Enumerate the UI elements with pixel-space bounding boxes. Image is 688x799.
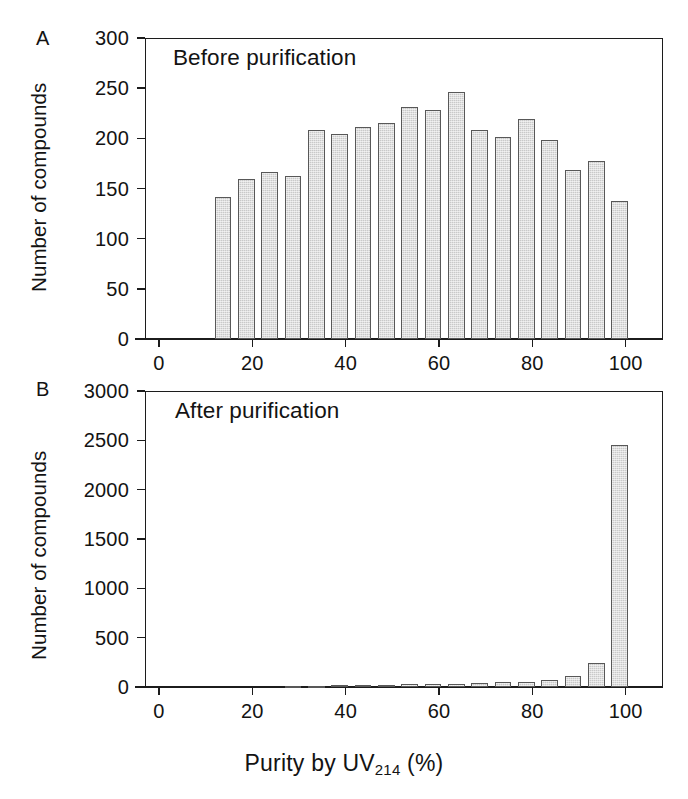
bar: [495, 682, 512, 687]
y-tick-mark: [137, 288, 145, 290]
y-tick-label: 0: [39, 676, 129, 699]
panel-a-title: Before purification: [173, 45, 356, 71]
x-tick-mark: [252, 687, 254, 695]
x-tick-label: 0: [153, 700, 164, 723]
x-tick-mark: [345, 687, 347, 695]
bar: [611, 201, 628, 339]
bar: [378, 685, 395, 687]
bar: [215, 197, 232, 339]
bar: [471, 683, 488, 687]
y-tick-mark: [137, 637, 145, 639]
x-tick-label: 100: [609, 700, 643, 723]
y-tick-label: 3000: [39, 380, 129, 403]
panel-b-title: After purification: [175, 398, 339, 424]
y-tick-label: 0: [39, 328, 129, 351]
x-tick-mark: [252, 339, 254, 347]
x-axis-caption: Purity by UV214 (%): [0, 750, 688, 777]
y-tick-mark: [137, 37, 145, 39]
bar: [285, 176, 302, 339]
y-tick-label: 1000: [39, 577, 129, 600]
bar: [331, 134, 348, 339]
x-tick-mark: [532, 687, 534, 695]
bar: [588, 663, 605, 687]
bar: [565, 170, 582, 339]
x-tick-mark: [625, 687, 627, 695]
panel-a: A Number of compounds 050100150200250300…: [0, 0, 688, 370]
x-tick-label: 80: [521, 700, 544, 723]
panel-b: B Number of compounds 050010001500200025…: [0, 370, 688, 799]
bar: [518, 119, 535, 339]
x-tick-mark: [532, 339, 534, 347]
y-tick-label: 150: [39, 177, 129, 200]
y-tick-mark: [137, 238, 145, 240]
x-tick-mark: [625, 339, 627, 347]
panel-b-plot-area: [145, 391, 663, 687]
y-tick-mark: [137, 390, 145, 392]
bar: [285, 686, 302, 688]
x-tick-mark: [345, 339, 347, 347]
x-axis-caption-suffix: (%): [400, 750, 443, 776]
bar: [518, 682, 535, 687]
bar: [378, 123, 395, 339]
bar: [355, 127, 372, 339]
x-tick-label: 20: [241, 700, 264, 723]
bar: [308, 130, 325, 339]
x-tick-mark: [158, 687, 160, 695]
bar: [448, 92, 465, 339]
y-tick-mark: [137, 588, 145, 590]
y-tick-label: 300: [39, 27, 129, 50]
bar: [588, 161, 605, 339]
bar: [261, 172, 278, 339]
x-tick-mark: [438, 687, 440, 695]
y-tick-mark: [137, 538, 145, 540]
figure-root: A Number of compounds 050100150200250300…: [0, 0, 688, 799]
y-tick-mark: [137, 87, 145, 89]
bar: [565, 676, 582, 687]
x-tick-mark: [158, 339, 160, 347]
y-tick-mark: [137, 188, 145, 190]
bar: [611, 445, 628, 687]
x-tick-label: 40: [334, 700, 357, 723]
y-tick-label: 50: [39, 277, 129, 300]
bar: [401, 107, 418, 339]
y-tick-label: 200: [39, 127, 129, 150]
x-axis-caption-prefix: Purity by UV: [245, 750, 375, 776]
bar: [541, 680, 558, 687]
y-tick-mark: [137, 138, 145, 140]
x-axis-caption-subscript: 214: [375, 761, 401, 778]
bar: [425, 110, 442, 339]
bar: [401, 684, 418, 687]
bar: [541, 140, 558, 339]
bar: [331, 685, 348, 687]
x-tick-mark: [438, 339, 440, 347]
y-tick-label: 250: [39, 77, 129, 100]
bar: [308, 686, 325, 688]
x-axis-line: [135, 686, 663, 688]
bar: [448, 684, 465, 687]
bar: [238, 179, 255, 339]
bar: [471, 130, 488, 339]
bar: [495, 137, 512, 339]
y-tick-label: 1500: [39, 528, 129, 551]
y-tick-mark: [137, 440, 145, 442]
x-tick-label: 60: [428, 700, 451, 723]
y-tick-label: 2000: [39, 478, 129, 501]
bar: [425, 684, 442, 687]
y-tick-mark: [137, 489, 145, 491]
bar: [355, 685, 372, 687]
y-tick-label: 2500: [39, 429, 129, 452]
y-tick-label: 500: [39, 626, 129, 649]
y-tick-label: 100: [39, 227, 129, 250]
